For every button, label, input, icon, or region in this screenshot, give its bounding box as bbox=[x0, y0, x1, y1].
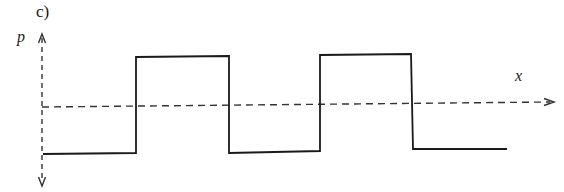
x-axis bbox=[42, 99, 554, 108]
square-wave-diagram bbox=[0, 0, 564, 192]
y-axis-down-arrow-icon bbox=[39, 177, 46, 186]
y-axis bbox=[39, 34, 46, 186]
square-wave-line bbox=[43, 54, 507, 154]
